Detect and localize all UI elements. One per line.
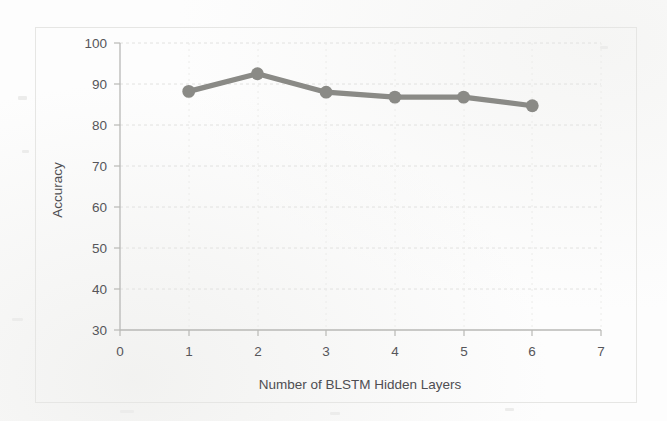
series-line xyxy=(189,74,533,106)
y-tick-label-90: 90 xyxy=(92,77,107,92)
y-tick-label-80: 80 xyxy=(92,118,107,133)
x-tick-marks xyxy=(120,330,601,336)
y-tick-label-50: 50 xyxy=(92,241,107,256)
x-tick-label-6: 6 xyxy=(528,344,536,359)
y-axis-title: Accuracy xyxy=(50,162,65,218)
y-tick-label-100: 100 xyxy=(84,36,107,51)
y-gridlines xyxy=(120,43,601,289)
data-point-5 xyxy=(457,91,470,104)
data-point-1 xyxy=(182,85,195,98)
y-tick-marks xyxy=(114,43,120,330)
data-point-4 xyxy=(388,91,401,104)
x-tick-label-2: 2 xyxy=(254,344,262,359)
x-tick-label-0: 0 xyxy=(116,344,124,359)
x-tick-label-1: 1 xyxy=(185,344,193,359)
x-tick-label-4: 4 xyxy=(391,344,399,359)
x-axis-title: Number of BLSTM Hidden Layers xyxy=(259,377,462,392)
y-tick-label-60: 60 xyxy=(92,200,107,215)
y-tick-label-40: 40 xyxy=(92,282,107,297)
data-series-accuracy xyxy=(182,67,538,112)
x-gridlines xyxy=(189,43,601,330)
y-tick-label-30: 30 xyxy=(92,323,107,338)
x-tick-labels: 0 1 2 3 4 5 6 7 xyxy=(116,344,605,359)
data-point-2 xyxy=(251,67,264,80)
y-tick-labels: 100 90 80 70 60 50 40 30 xyxy=(84,36,107,338)
accuracy-line-chart: 100 90 80 70 60 50 40 30 0 1 2 3 4 5 6 7 xyxy=(0,0,667,421)
chart-svg: 100 90 80 70 60 50 40 30 0 1 2 3 4 5 6 7 xyxy=(0,0,667,421)
series-markers xyxy=(182,67,538,112)
data-point-6 xyxy=(526,99,539,112)
data-point-3 xyxy=(320,86,333,99)
y-tick-label-70: 70 xyxy=(92,159,107,174)
x-tick-label-5: 5 xyxy=(460,344,468,359)
x-tick-label-3: 3 xyxy=(322,344,330,359)
x-tick-label-7: 7 xyxy=(597,344,605,359)
figure-page: 100 90 80 70 60 50 40 30 0 1 2 3 4 5 6 7 xyxy=(0,0,667,421)
